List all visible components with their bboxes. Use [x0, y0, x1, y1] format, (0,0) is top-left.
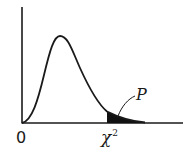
chi-symbol: χ	[101, 127, 111, 147]
tail-probability-label: P	[136, 87, 147, 103]
density-curve	[22, 36, 145, 123]
p-leader-line	[118, 96, 135, 116]
chi-square-label: χ2	[101, 129, 118, 146]
origin-label: 0	[16, 130, 26, 146]
chi-superscript: 2	[112, 128, 118, 138]
chi-square-diagram	[0, 0, 188, 155]
